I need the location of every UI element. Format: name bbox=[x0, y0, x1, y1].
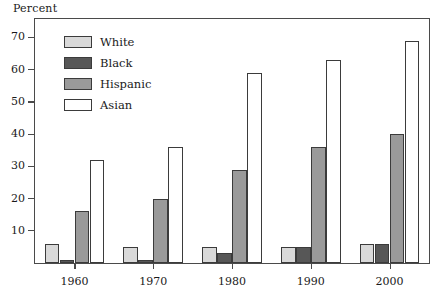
legend-label-white: White bbox=[100, 36, 134, 49]
x-axis-tick-label: 1980 bbox=[218, 275, 246, 288]
bar-black-1960 bbox=[60, 260, 75, 263]
y-axis-title: Percent bbox=[13, 2, 57, 15]
bar-asian-1980 bbox=[247, 73, 262, 263]
y-axis-tick-label: 60 bbox=[11, 62, 25, 77]
y-axis-tick-label: 70 bbox=[11, 29, 25, 44]
bar-black-1980 bbox=[217, 253, 232, 263]
x-axis-tick-mark bbox=[311, 264, 312, 269]
x-axis-tick-label: 1970 bbox=[139, 275, 167, 288]
bar-asian-1970 bbox=[168, 147, 183, 263]
y-axis-tick-label: 10 bbox=[11, 223, 25, 238]
y-axis-tick-mark bbox=[28, 69, 34, 70]
x-axis-tick-mark bbox=[74, 264, 75, 269]
legend-item-asian: Asian bbox=[64, 96, 151, 114]
legend-label-black: Black bbox=[100, 57, 132, 70]
y-axis-tick-mark bbox=[28, 101, 34, 102]
x-axis-tick-label: 1960 bbox=[60, 275, 88, 288]
bar-white-2000 bbox=[360, 244, 375, 263]
legend-item-hispanic: Hispanic bbox=[64, 75, 151, 93]
bar-asian-1960 bbox=[90, 160, 105, 263]
y-axis-tick-label: 30 bbox=[11, 158, 25, 173]
bar-group bbox=[360, 18, 420, 263]
legend-item-white: White bbox=[64, 33, 151, 51]
bar-hispanic-1960 bbox=[75, 211, 90, 263]
bar-black-1970 bbox=[138, 260, 153, 263]
legend-swatch-white bbox=[64, 36, 92, 48]
bar-asian-1990 bbox=[326, 60, 341, 263]
legend-label-asian: Asian bbox=[100, 99, 132, 112]
y-axis-tick-mark bbox=[28, 37, 34, 38]
bar-hispanic-1970 bbox=[153, 199, 168, 263]
x-axis-tick-mark bbox=[390, 264, 391, 269]
y-axis-tick-mark bbox=[28, 134, 34, 135]
y-axis-tick-label: 40 bbox=[11, 126, 25, 141]
bar-white-1990 bbox=[281, 247, 296, 263]
legend-label-hispanic: Hispanic bbox=[100, 78, 151, 91]
x-axis-tick-mark bbox=[153, 264, 154, 269]
x-axis-tick-mark bbox=[232, 264, 233, 269]
legend-item-black: Black bbox=[64, 54, 151, 72]
legend-swatch-hispanic bbox=[64, 78, 92, 90]
legend-swatch-asian bbox=[64, 99, 92, 111]
bar-chart: Percent 10203040506070 19601970198019902… bbox=[0, 0, 439, 307]
bar-white-1980 bbox=[202, 247, 217, 263]
bar-white-1960 bbox=[45, 244, 60, 263]
chart-legend: WhiteBlackHispanicAsian bbox=[64, 33, 151, 117]
y-axis-tick-label: 20 bbox=[11, 191, 25, 206]
bar-hispanic-2000 bbox=[390, 134, 405, 263]
bar-black-2000 bbox=[375, 244, 390, 263]
bar-group bbox=[281, 18, 341, 263]
bar-hispanic-1980 bbox=[232, 170, 247, 263]
bar-hispanic-1990 bbox=[311, 147, 326, 263]
y-axis-tick-mark bbox=[28, 230, 34, 231]
bar-asian-2000 bbox=[405, 41, 420, 263]
bar-group bbox=[202, 18, 262, 263]
y-axis-tick-label: 50 bbox=[11, 94, 25, 109]
y-axis-tick-mark bbox=[28, 166, 34, 167]
y-axis-tick-mark bbox=[28, 198, 34, 199]
bar-black-1990 bbox=[296, 247, 311, 263]
bar-white-1970 bbox=[123, 247, 138, 263]
x-axis-tick-label: 2000 bbox=[376, 275, 404, 288]
legend-swatch-black bbox=[64, 57, 92, 69]
x-axis-tick-label: 1990 bbox=[297, 275, 325, 288]
